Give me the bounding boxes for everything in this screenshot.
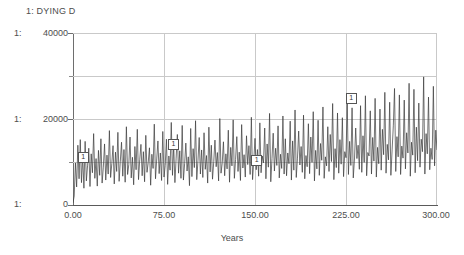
x-axis-tick-label-225: 225.00 [322,210,370,220]
x-axis-tick-label-75: 75.00 [140,210,188,220]
series-marker-3: 1 [251,155,262,166]
y-axis-tick-label-40000: 40000 [30,28,68,38]
y-axis-prefix-0: 1: [14,199,22,209]
x-axis-tick-label-150: 150.00 [231,210,279,220]
series-marker-2: 1 [168,139,179,150]
series-line-dying-d [73,33,437,205]
y-axis-prefix-40000: 1: [14,28,22,38]
series-marker-1: 1 [78,152,89,163]
plot-area: 1111 [73,33,437,205]
y-tick-0 [68,205,73,206]
series-legend-label: 1: DYING D [26,6,76,16]
y-axis-tick-label-20000: 20000 [30,114,68,124]
chart-container: 1: DYING D 1: 1: 1: 40000 20000 0 1111 0… [0,0,464,255]
x-axis-line [73,205,438,206]
x-axis-title: Years [0,233,464,243]
x-axis-tick-label-0: 0.00 [49,210,97,220]
y-axis-tick-label-0: 0 [30,199,68,209]
x-axis-tick-label-300: 300.00 [412,210,460,220]
series-marker-4: 1 [346,93,357,104]
y-axis-prefix-20000: 1: [14,114,22,124]
